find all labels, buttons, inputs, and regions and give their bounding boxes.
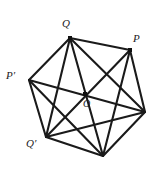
vertex-label-O: O: [83, 99, 90, 109]
edge-P-Qp: [46, 50, 130, 137]
edge-P-R: [130, 50, 145, 112]
hexagon-diagram-canvas: [0, 0, 159, 177]
vertex-dot-P: [128, 48, 132, 52]
vertex-label-Pp: P′: [6, 70, 15, 81]
edge-Qp-R: [46, 112, 145, 137]
vertex-label-P: P: [133, 33, 140, 44]
geometry-figure: QPQ′P′O: [0, 0, 159, 177]
vertex-label-Q: Q: [62, 18, 70, 29]
vertex-dot-O: [83, 92, 87, 96]
edge-layer: [29, 38, 145, 156]
edge-P-B: [103, 50, 130, 156]
edge-Q-Qp: [46, 38, 70, 137]
vertex-dot-Q: [68, 36, 72, 40]
vertex-label-Qp: Q′: [26, 138, 36, 149]
